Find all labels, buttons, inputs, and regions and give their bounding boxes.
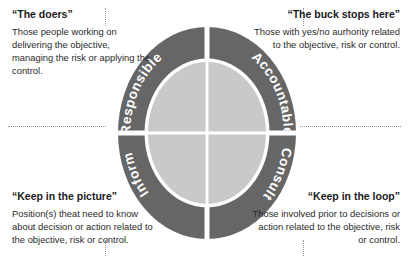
- callout-bottom-right-body: Those involved prior to decisions or act…: [248, 208, 400, 247]
- callout-bottom-right-heading: “Keep in the loop”: [248, 190, 400, 203]
- callout-bottom-left-body: Position(s) theat need to know about dec…: [12, 208, 160, 247]
- callout-bottom-left: “Keep in the picture” Position(s) theat …: [12, 190, 160, 247]
- callout-top-left-body: Those people working on delivering the o…: [12, 26, 152, 78]
- callout-bottom-left-heading: “Keep in the picture”: [12, 190, 160, 203]
- callout-top-right-body: Those with yes/no aurhority related to t…: [248, 26, 400, 52]
- callout-top-right: “The buck stops here” Those with yes/no …: [248, 8, 400, 52]
- diagram-canvas: Responsible Accountable Inform Consult “…: [0, 0, 409, 263]
- callout-bottom-right: “Keep in the loop” Those involved prior …: [248, 190, 400, 247]
- guide-line-right: [300, 126, 401, 127]
- inner-divider-horizontal: [148, 132, 266, 135]
- callout-top-left: “The doers” Those people working on deli…: [12, 8, 152, 78]
- guide-line-left: [8, 126, 106, 127]
- callout-top-right-heading: “The buck stops here”: [248, 8, 400, 21]
- callout-top-left-heading: “The doers”: [12, 8, 152, 21]
